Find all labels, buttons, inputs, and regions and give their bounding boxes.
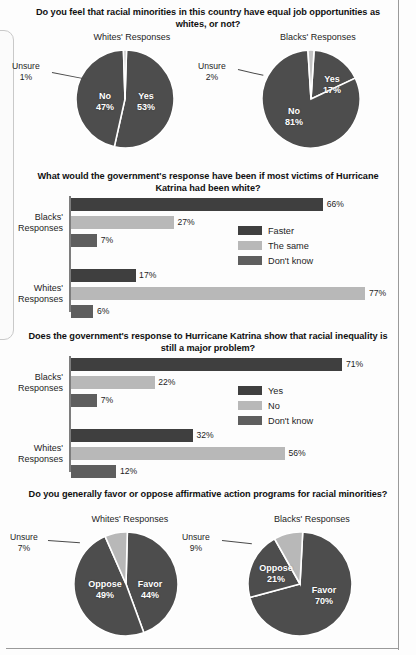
pie-callout-unsure: Unsure1% — [12, 61, 40, 82]
bar-don-t-know — [71, 465, 117, 478]
page-rule-bottom — [6, 648, 399, 649]
pie-slice-label-no: No81% — [285, 106, 303, 128]
pie-slice-label-oppose: Oppose21% — [259, 563, 293, 585]
bar-don-t-know — [71, 234, 98, 247]
bar-group-name: Whites'Responses — [18, 443, 63, 464]
chart-panel-katrina-white-victims: What would the government's response hav… — [0, 170, 416, 320]
pie-slice-label-yes: Yes53% — [137, 91, 155, 113]
bar-group-label: Blacks'Responses — [0, 212, 63, 234]
pie-callout-label: Unsure — [12, 61, 40, 71]
bar-no — [71, 447, 285, 460]
pie-callout-value: 1% — [12, 72, 40, 83]
bar-value-label: 71% — [346, 359, 363, 369]
bar-group-label: Whites'Responses — [0, 443, 63, 465]
bar-group-name: Blacks'Responses — [18, 212, 63, 233]
legend-label: Don't know — [268, 416, 313, 426]
pie-slice-name: Yes — [324, 74, 340, 84]
pie-callout-unsure: Unsure2% — [198, 61, 226, 82]
pie-group-label-whites: Whites' Responses — [72, 32, 192, 42]
pie-callout-label: Unsure — [10, 532, 38, 542]
pie-callout-leader-line — [238, 69, 264, 76]
figure-page: Do you feel that racial minorities in th… — [0, 0, 416, 655]
bar-no — [71, 376, 155, 389]
bar-group-name: Blacks'Responses — [18, 372, 63, 393]
legend-swatch-icon — [238, 226, 262, 235]
bar-value-label: 7% — [101, 235, 113, 245]
pie-callout-value: 7% — [10, 543, 38, 554]
pie-callout-label: Unsure — [182, 532, 210, 542]
legend-swatch-icon — [238, 416, 262, 425]
bar-yes — [71, 358, 343, 371]
panel-title: Do you feel that racial minorities in th… — [0, 6, 416, 31]
chart-panel-affirmative-action: Do you generally favor or oppose affirma… — [0, 488, 416, 648]
pie-slice-label-oppose: Oppose49% — [88, 579, 122, 601]
bar-value-label: 22% — [158, 377, 175, 387]
pie-slice-label-favor: Favor70% — [312, 585, 337, 607]
legend-label: No — [268, 401, 280, 411]
pie-slice-label-no: No47% — [96, 91, 114, 113]
bar-faster — [71, 269, 136, 282]
bar-value-label: 66% — [327, 199, 344, 209]
pie-slice-value: 47% — [96, 102, 114, 112]
bar-value-label: 56% — [288, 448, 305, 458]
bar-chart-legend: FasterThe sameDon't know — [238, 224, 313, 269]
pie-slice-value: 21% — [267, 574, 285, 584]
pie-callout-value: 9% — [182, 543, 210, 554]
bar-value-label: 32% — [197, 430, 214, 440]
bar-don-t-know — [71, 394, 98, 407]
panel-title: Do you generally favor or oppose affirma… — [0, 488, 416, 500]
bar-the-same — [71, 216, 174, 229]
legend-label: Faster — [268, 226, 294, 236]
bar-value-label: 27% — [177, 217, 194, 227]
legend-item: No — [238, 399, 313, 412]
pie-slice-name: No — [288, 106, 300, 116]
bar-don-t-know — [71, 305, 94, 318]
legend-swatch-icon — [238, 256, 262, 265]
legend-label: Yes — [268, 386, 283, 396]
bar-the-same — [71, 287, 366, 300]
bar-chart-legend: YesNoDon't know — [238, 384, 313, 429]
pie-slice-value: 70% — [315, 596, 333, 606]
pie-slices — [262, 50, 360, 148]
pie-slice-name: No — [99, 91, 111, 101]
pie-callout-label: Unsure — [198, 61, 226, 71]
pie-slice-value: 49% — [96, 590, 114, 600]
pie-callout-unsure: Unsure7% — [10, 532, 38, 553]
pie-group-label-blacks: Blacks' Responses — [258, 32, 378, 42]
bar-yes — [71, 429, 194, 442]
bar-group-label: Blacks'Responses — [0, 372, 63, 394]
bar-group-label: Whites'Responses — [0, 283, 63, 305]
legend-item: Don't know — [238, 254, 313, 267]
pie-slice-value: 53% — [137, 102, 155, 112]
panel-title: What would the government's response hav… — [0, 170, 416, 195]
pie-slice-name: Oppose — [88, 579, 122, 589]
pie-slice-name: Favor — [138, 579, 163, 589]
pie-slice-label-favor: Favor44% — [138, 579, 163, 601]
bar-value-label: 77% — [369, 288, 386, 298]
pie-slice-label-yes: Yes17% — [323, 74, 341, 96]
bar-value-label: 7% — [101, 395, 113, 405]
bar-group-name: Whites'Responses — [18, 283, 63, 304]
bar-value-label: 12% — [120, 466, 137, 476]
pie-slice-name: Oppose — [259, 563, 293, 573]
legend-item: Don't know — [238, 414, 313, 427]
pie-slice-value: 81% — [285, 117, 303, 127]
bar-faster — [71, 198, 324, 211]
legend-item: Faster — [238, 224, 313, 237]
legend-swatch-icon — [238, 241, 262, 250]
pie-slice-value: 44% — [141, 590, 159, 600]
pie-callout-value: 2% — [198, 72, 226, 83]
pie-slice-name: Yes — [138, 91, 154, 101]
pie-callout-unsure: Unsure9% — [182, 532, 210, 553]
panel-title: Does the government's response to Hurric… — [0, 330, 416, 355]
legend-label: Don't know — [268, 256, 313, 266]
legend-label: The same — [268, 241, 309, 251]
legend-swatch-icon — [238, 386, 262, 395]
pie-slices — [76, 50, 174, 148]
chart-panel-job-opportunities: Do you feel that racial minorities in th… — [0, 6, 416, 164]
legend-item: The same — [238, 239, 313, 252]
legend-swatch-icon — [238, 401, 262, 410]
pie-group-label-whites: Whites' Responses — [70, 514, 190, 524]
pie-group-label-blacks: Blacks' Responses — [252, 514, 372, 524]
bar-value-label: 17% — [139, 270, 156, 280]
